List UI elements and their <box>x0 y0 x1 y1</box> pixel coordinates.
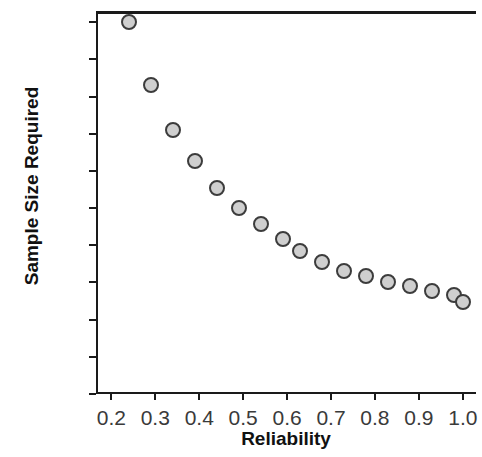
x-tick-label: 1.0 <box>433 406 482 430</box>
y-tick-mark <box>89 207 96 209</box>
y-tick-mark <box>89 281 96 283</box>
y-tick-mark <box>89 58 96 60</box>
data-point <box>121 14 137 30</box>
y-tick-mark <box>89 21 96 23</box>
y-tick-mark <box>89 244 96 246</box>
y-tick-mark <box>89 356 96 358</box>
data-point <box>165 122 181 138</box>
data-point <box>253 216 269 232</box>
x-axis-title: Reliability <box>96 428 476 450</box>
data-point <box>143 77 159 93</box>
data-point <box>424 283 440 299</box>
y-tick-mark <box>89 96 96 98</box>
data-point <box>187 153 203 169</box>
y-tick-mark <box>89 393 96 395</box>
data-point <box>292 243 308 259</box>
data-point <box>336 263 352 279</box>
y-tick-mark <box>89 319 96 321</box>
y-tick-mark <box>89 170 96 172</box>
data-point <box>275 231 291 247</box>
data-point <box>402 278 418 294</box>
plot-area: 050100150200250300350400450500 0.20.30.4… <box>96 11 476 394</box>
data-point <box>314 254 330 270</box>
data-point <box>455 294 471 310</box>
y-tick-mark <box>89 133 96 135</box>
data-point <box>209 180 225 196</box>
data-point <box>231 200 247 216</box>
y-axis-title: Sample Size Required <box>21 56 43 316</box>
data-point <box>380 274 396 290</box>
data-point-layer <box>96 11 476 394</box>
data-point <box>358 268 374 284</box>
